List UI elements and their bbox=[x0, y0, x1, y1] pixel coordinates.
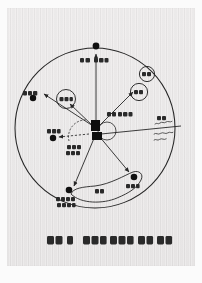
city-center-block-lower bbox=[92, 132, 102, 140]
annotation-center-lower-left bbox=[66, 145, 81, 155]
circled-label-left bbox=[57, 90, 76, 109]
arrow-to-ilsan bbox=[70, 104, 93, 126]
arrow-to-bundang bbox=[100, 92, 133, 125]
figure-caption bbox=[7, 232, 195, 256]
arrow-to-south bbox=[74, 136, 95, 186]
node-west bbox=[50, 135, 56, 141]
arrow-to-right-edge bbox=[101, 126, 181, 134]
node-south bbox=[66, 187, 73, 194]
inner-dashed-arc bbox=[69, 120, 87, 141]
blob-inner-label bbox=[95, 189, 104, 193]
page-root bbox=[0, 0, 202, 283]
node-west-label bbox=[47, 129, 61, 133]
node-southeast-label bbox=[126, 184, 140, 188]
city-center-block bbox=[91, 120, 100, 131]
node-north-label bbox=[80, 58, 109, 63]
annotation-center-right bbox=[107, 112, 133, 116]
node-north bbox=[93, 43, 100, 50]
figure-diagram bbox=[7, 8, 195, 266]
node-northwest bbox=[30, 95, 36, 101]
arrow-to-southeast bbox=[99, 136, 129, 172]
caption-text bbox=[83, 236, 172, 244]
circled-label-upper-right bbox=[139, 66, 154, 81]
arrow-to-west bbox=[59, 134, 89, 137]
node-southeast bbox=[131, 174, 138, 181]
node-northwest-label bbox=[23, 91, 37, 95]
caption-figure-label bbox=[47, 236, 73, 244]
